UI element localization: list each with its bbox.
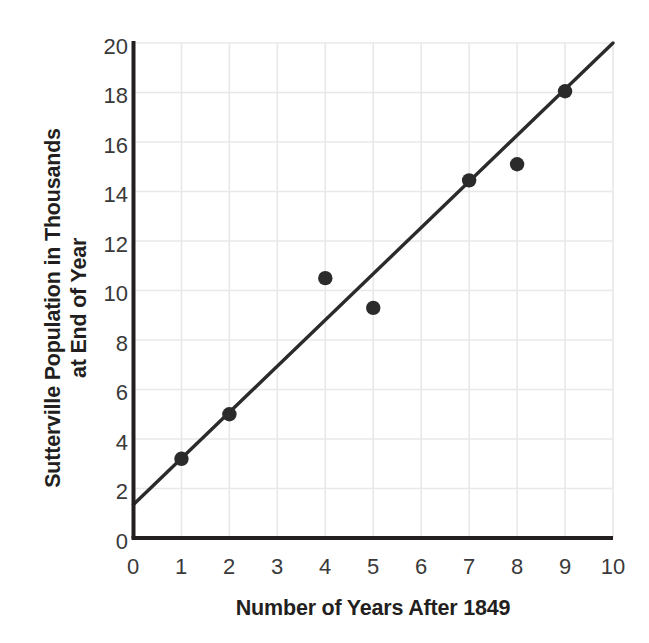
data-point [318, 271, 332, 285]
data-point [462, 173, 476, 187]
data-point [558, 84, 572, 98]
data-point [222, 407, 236, 421]
axis-lines [132, 41, 614, 538]
chart-figure: Sutterville Population in Thousands at E… [0, 0, 649, 643]
data-point [510, 157, 524, 171]
plot-area [0, 0, 649, 643]
gridlines [134, 43, 614, 538]
data-point [174, 452, 188, 466]
data-point [366, 301, 380, 315]
